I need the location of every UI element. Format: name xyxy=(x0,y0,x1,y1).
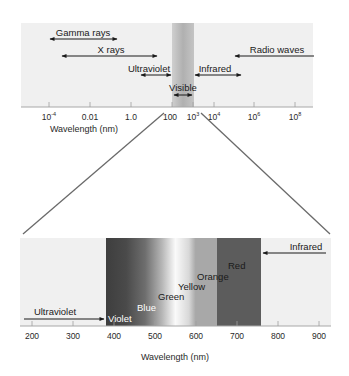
tick-label: 700 xyxy=(230,331,244,341)
tick-label: 108 xyxy=(289,111,302,122)
ultraviolet-label: Ultraviolet xyxy=(128,63,171,74)
bottom-axis-title: Wavelength (nm) xyxy=(141,352,209,362)
tick-label: 100 xyxy=(163,112,177,122)
orange-label: Orange xyxy=(197,271,229,282)
infrared-label: Infrared xyxy=(199,63,232,74)
tick-label: 106 xyxy=(248,111,261,122)
yellow-label: Yellow xyxy=(178,281,205,292)
tick-label: 1.0 xyxy=(125,112,137,122)
radio-waves-label: Radio waves xyxy=(250,44,305,55)
tick-label: 103 xyxy=(187,111,200,122)
top-axis-title: Wavelength (nm) xyxy=(50,124,118,134)
red-band xyxy=(217,238,261,326)
visible-label: Visible xyxy=(169,82,197,93)
gamma-rays-range: Gamma rays xyxy=(50,27,117,39)
tick-label: 400 xyxy=(107,331,121,341)
bottom-axis-tick-labels: 200 300 400 500 600 700 800 900 xyxy=(25,331,326,341)
tick-label: 800 xyxy=(271,331,285,341)
ultraviolet-range: Ultraviolet xyxy=(128,63,171,75)
tick-label: 0.01 xyxy=(82,112,99,122)
gamma-rays-label: Gamma rays xyxy=(56,27,111,38)
top-spectrum-panel: Gamma rays X rays Ultraviolet Visible In… xyxy=(21,23,314,134)
violet-label: Violet xyxy=(108,313,132,324)
tick-label: 300 xyxy=(66,331,80,341)
electromagnetic-spectrum-diagram: Gamma rays X rays Ultraviolet Visible In… xyxy=(0,0,349,376)
bottom-infrared-label: Infrared xyxy=(290,241,323,252)
top-axis-tick-labels: 10-4 0.01 1.0 100 103 104 106 108 xyxy=(42,111,301,122)
red-label: Red xyxy=(228,260,245,271)
right-connector-line xyxy=(201,113,330,234)
visible-band xyxy=(172,23,194,107)
tick-label: 500 xyxy=(148,331,162,341)
x-rays-label: X rays xyxy=(98,44,125,55)
bottom-ultraviolet-label: Ultraviolet xyxy=(34,306,77,317)
tick-label: 10-4 xyxy=(42,111,56,122)
green-label: Green xyxy=(158,291,184,302)
visible-spectrum-panel: Ultraviolet Infrared Violet Blue Green Y… xyxy=(20,238,331,362)
tick-label: 200 xyxy=(25,331,39,341)
blue-label: Blue xyxy=(137,302,156,313)
tick-label: 900 xyxy=(312,331,326,341)
tick-label: 600 xyxy=(189,331,203,341)
